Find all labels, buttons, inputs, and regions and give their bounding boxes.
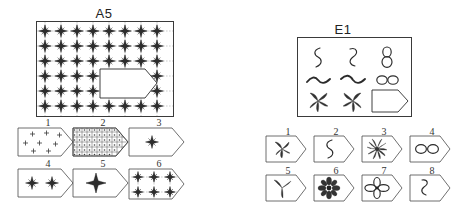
cell-e1-r2c1-horizontal-wave [307, 78, 330, 83]
option-e1-2[interactable]: 2 [313, 126, 359, 164]
option-e1-1[interactable]: 1 [265, 126, 311, 164]
option-a5-4-figure [17, 168, 77, 198]
cell-e1-r1c3-vertical-figure-eight [382, 47, 392, 67]
option-e1-5-figure [265, 174, 309, 202]
option-e1-7[interactable]: 7 [361, 165, 407, 205]
option-e1-5[interactable]: 5 [265, 165, 311, 205]
option-a5-1-figure [17, 127, 77, 157]
option-a5-3[interactable]: 3 [128, 117, 190, 157]
option-e1-1-figure [265, 135, 309, 163]
option-a5-6[interactable]: 6 [128, 158, 190, 200]
option-e1-8-figure [409, 174, 453, 202]
option-e1-7-figure [361, 174, 405, 202]
cell-e1-r2c3-horizontal-infinity [377, 76, 398, 84]
cell-e1-r2c2-horizontal-wave-mirrored [341, 76, 365, 83]
matrix-e1-missing-piece [372, 90, 408, 112]
test-item-a5: A5 [0, 0, 223, 207]
option-e1-4[interactable]: 4 [409, 126, 455, 164]
matrix-a5 [36, 21, 174, 117]
option-a5-2[interactable]: 2 [72, 117, 134, 157]
option-a5-3-figure [128, 127, 188, 157]
option-e1-3-figure [361, 135, 405, 163]
item-label-a5: A5 [64, 6, 144, 21]
matrix-e1-canvas [298, 38, 411, 116]
matrix-a5-canvas [37, 22, 173, 116]
cell-e1-r3c1-pinwheel [310, 93, 328, 112]
test-item-e1: E1 [223, 0, 446, 207]
option-e1-8[interactable]: 8 [409, 165, 455, 205]
item-label-e1: E1 [313, 22, 373, 37]
option-e1-6[interactable]: 6 [313, 165, 359, 205]
matrix-a5-missing-piece [100, 69, 157, 98]
option-a5-1[interactable]: 1 [17, 117, 79, 157]
option-a5-5[interactable]: 5 [72, 158, 134, 200]
option-e1-3[interactable]: 3 [361, 126, 407, 164]
option-a5-2-figure [72, 127, 132, 157]
matrix-e1 [297, 37, 412, 117]
cell-e1-r3c2-pinwheel-mirrored [343, 93, 361, 112]
cell-e1-r1c2-zigzag-curve [350, 49, 357, 66]
matrix-a5-star-lattice [38, 24, 163, 112]
cell-e1-r1c1-s-curve [315, 48, 321, 67]
option-a5-6-figure [128, 168, 188, 200]
option-e1-4-figure [409, 135, 453, 163]
option-e1-2-figure [313, 135, 357, 163]
option-e1-6-figure [313, 174, 357, 202]
option-a5-4[interactable]: 4 [17, 158, 79, 200]
option-a5-5-figure [72, 168, 132, 198]
